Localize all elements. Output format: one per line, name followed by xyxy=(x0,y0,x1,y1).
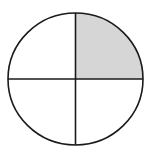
fraction-circle-diagram xyxy=(0,0,151,147)
shaded-quadrant-top-right xyxy=(76,13,144,79)
